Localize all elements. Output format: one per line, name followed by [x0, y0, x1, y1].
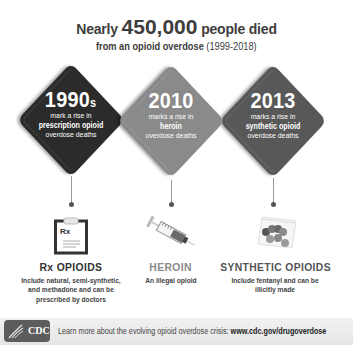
- milestone-1990s: 1990s mark a rise in prescription opioid…: [16, 60, 126, 180]
- milestone-year: 1990s: [45, 88, 96, 111]
- connector-dot: [69, 202, 74, 207]
- category-desc-line: illicitly made: [220, 285, 330, 294]
- title-suffix: people died: [197, 21, 276, 37]
- syringe-icon: [144, 213, 200, 257]
- milestone-2013: 2013 marks a rise in synthetic opioid ov…: [218, 61, 328, 181]
- category-title: Rx OPIOIDS: [40, 262, 103, 274]
- milestone-line-3: overdose deaths: [124, 132, 219, 140]
- connector-line: [171, 180, 172, 204]
- category-title: HEROIN: [150, 262, 192, 274]
- category-desc-line: Include fentanyl and can be: [220, 276, 330, 285]
- death-count: 450,000: [122, 15, 198, 38]
- pill-bag-icon: [254, 214, 300, 254]
- year-range: (1999-2018): [204, 40, 257, 52]
- milestone-year: 2013: [250, 89, 295, 112]
- milestone-line-3: overdose deaths: [226, 132, 321, 140]
- milestone-2010: 2010 marks a rise in heroin overdose dea…: [116, 61, 226, 181]
- category-desc-line: An illegal opioid: [134, 276, 208, 285]
- clipboard-rx-icon: Rx: [54, 217, 88, 259]
- footer-bar: CDC Learn more about the evolving opioid…: [0, 318, 353, 345]
- milestone-line-1: mark a rise in: [24, 112, 119, 120]
- footer-message: Learn more about the evolving opioid ove…: [58, 326, 326, 336]
- category-desc-line: and methadone and can be: [14, 285, 127, 294]
- title-prefix: Nearly: [76, 21, 121, 37]
- connector-line: [273, 178, 274, 204]
- svg-text:Rx: Rx: [60, 227, 71, 236]
- milestone-subject: heroin: [124, 122, 219, 131]
- milestone-subject: synthetic opioid: [226, 122, 321, 131]
- hhs-eagle-icon: [7, 322, 25, 340]
- title-line-2: from an opioid overdose (1999-2018): [96, 41, 257, 52]
- category-desc-line: prescribed by doctors: [14, 295, 127, 304]
- category-title: SYNTHETIC OPIOIDS: [220, 262, 331, 274]
- footer-text: Learn more about the evolving opioid ove…: [58, 326, 231, 336]
- connector-line: [71, 176, 72, 204]
- title-line-1: Nearly 450,000 people died: [0, 16, 353, 37]
- milestone-line-1: marks a rise in: [124, 113, 219, 121]
- milestone-subject: prescription opioid: [24, 121, 119, 130]
- category-desc-line: Include natural, semi-synthetic,: [14, 276, 127, 285]
- page-title: Nearly 450,000 people died from an opioi…: [0, 16, 353, 53]
- connector-dot: [271, 202, 276, 207]
- category-heroin: HEROIN An illegal opioid: [130, 258, 212, 285]
- title-subject: from an opioid overdose: [96, 40, 204, 52]
- category-rx-opioids: Rx OPIOIDS Include natural, semi-synthet…: [8, 258, 134, 304]
- milestone-year: 2010: [148, 89, 193, 112]
- milestone-line-3: overdose deaths: [24, 131, 119, 139]
- cdc-logo[interactable]: CDC: [4, 320, 50, 342]
- milestone-line-1: marks a rise in: [226, 113, 321, 121]
- category-synthetic-opioids: SYNTHETIC OPIOIDS Include fentanyl and c…: [214, 258, 336, 295]
- cdc-logo-text: CDC: [28, 325, 50, 336]
- footer-link[interactable]: www.cdc.gov/drugoverdose: [231, 326, 327, 336]
- connector-dot: [169, 202, 174, 207]
